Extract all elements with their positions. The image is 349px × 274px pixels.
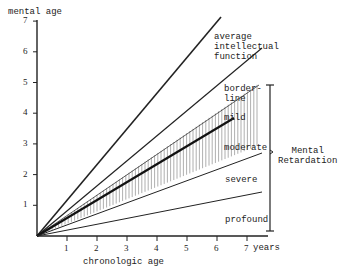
y-tick-label: 4 xyxy=(23,107,28,117)
line-borderline-mild xyxy=(37,85,259,236)
line-mean xyxy=(37,118,234,236)
y-tick-label: 1 xyxy=(23,199,28,209)
y-tick-label: 6 xyxy=(23,46,28,56)
label-severe: severe xyxy=(225,175,257,185)
x-tick-label: 4 xyxy=(154,243,159,253)
x-tick-label: 2 xyxy=(94,243,99,253)
x-tick-label: 3 xyxy=(124,243,129,253)
x-tick-label: 6 xyxy=(214,243,219,253)
label-mild: mild xyxy=(224,113,246,123)
label-moderate: moderate xyxy=(224,143,267,153)
y-tick-label: 3 xyxy=(23,138,28,148)
x-axis-label: chronologic age xyxy=(83,257,164,267)
y-tick-label: 7 xyxy=(23,15,28,25)
x-unit-label: years xyxy=(253,243,280,253)
y-tick-label: 5 xyxy=(23,77,28,87)
x-tick-label: 1 xyxy=(64,243,69,253)
x-tick-label: 7 xyxy=(244,243,249,253)
label-borderline: border- line xyxy=(224,84,262,104)
line-average-upper xyxy=(37,17,221,236)
y-axis-label: mental age xyxy=(8,7,62,17)
x-ticks xyxy=(67,236,247,241)
line-severe-profound xyxy=(37,192,262,236)
x-tick-label: 5 xyxy=(184,243,189,253)
label-profound: profound xyxy=(225,215,268,225)
y-tick-label: 2 xyxy=(23,169,28,179)
label-mental-retardation: Mental Retardation xyxy=(278,146,337,166)
label-average: average intellectual function xyxy=(214,32,279,62)
chart-plot xyxy=(0,0,349,274)
